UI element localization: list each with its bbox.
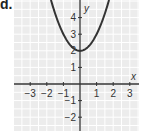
x-axis-label: x <box>130 71 137 82</box>
x-tick-label: 3 <box>127 88 133 99</box>
x-tick-label: −3 <box>24 88 36 99</box>
y-tick-label: 3 <box>70 29 76 40</box>
x-tick-label: −2 <box>41 88 53 99</box>
y-axis-label: y <box>83 3 90 14</box>
parabola-chart: −3−2−11234321−1−2xy <box>0 0 145 131</box>
y-tick-label: −1 <box>65 95 77 106</box>
x-tick-label: 1 <box>94 88 100 99</box>
y-tick-label: 4 <box>70 12 76 23</box>
y-tick-label: 1 <box>70 62 76 73</box>
grid-background <box>14 0 139 131</box>
y-tick-label: −2 <box>65 112 77 123</box>
x-tick-label: 2 <box>110 88 116 99</box>
